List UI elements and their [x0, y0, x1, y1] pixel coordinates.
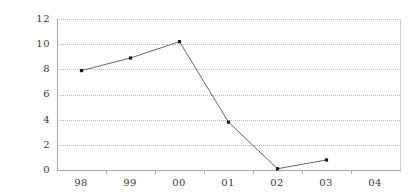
data-point-marker: [325, 158, 328, 161]
data-series-layer: [0, 0, 416, 194]
data-point-marker: [129, 56, 132, 59]
line-chart: 12 10 8 6 4 2 0 98 99 00 01 02 03 04: [0, 0, 416, 194]
series-markers: [80, 40, 328, 170]
data-point-marker: [80, 69, 83, 72]
data-point-marker: [178, 40, 181, 43]
series-line: [82, 42, 327, 169]
data-point-marker: [276, 167, 279, 170]
data-point-marker: [227, 121, 230, 124]
